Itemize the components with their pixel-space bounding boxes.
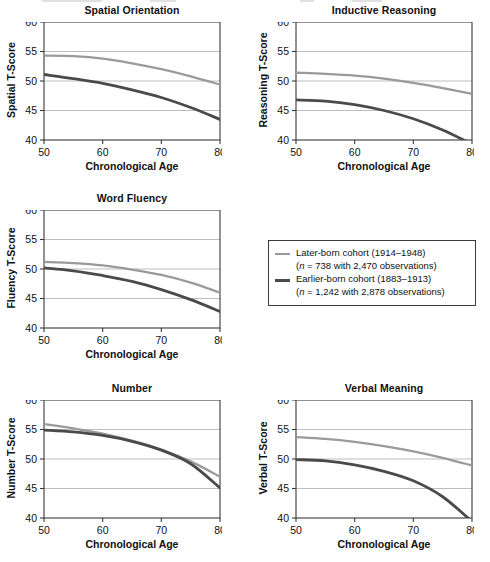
panel-title-word-fluency: Word Fluency [44, 192, 220, 204]
plot-wrap-spatial-orientation: 404550556050607080 [4, 22, 222, 162]
y-tick-label-55: 55 [25, 233, 37, 245]
legend-item-earlier-born: Earlier-born cohort (1883–1913) (n = 1,2… [275, 273, 467, 298]
y-tick-label-50: 50 [277, 75, 289, 87]
series-line-earlier-born-word-fluency [44, 268, 220, 312]
legend-detail-later-born: (n = 738 with 2,470 observations) [296, 260, 437, 273]
x-tick-label-60: 60 [97, 524, 109, 536]
x-tick-label-70: 70 [155, 524, 167, 536]
x-tick-label-80: 80 [466, 146, 474, 158]
plot-area-inductive-reasoning: 404550556050607080 [256, 22, 474, 162]
legend-label-earlier-born-text: Earlier-born cohort (1883–1913) [296, 273, 431, 284]
y-tick-label-40: 40 [25, 322, 37, 334]
series-line-later-born-spatial-orientation [44, 56, 220, 85]
y-tick-label-45: 45 [277, 482, 289, 494]
x-tick-label-80: 80 [466, 524, 474, 536]
y-tick-label-60: 60 [25, 22, 37, 28]
chart-legend: Later-born cohort (1914–1948) (n = 738 w… [268, 240, 476, 306]
y-tick-label-40: 40 [277, 512, 289, 524]
legend-item-later-born: Later-born cohort (1914–1948) (n = 738 w… [275, 247, 467, 272]
plot-wrap-number: 404550556050607080 [4, 400, 222, 540]
panel-word-fluency: Word FluencyFluency T-ScoreChronological… [4, 190, 226, 360]
x-tick-label-50: 50 [290, 146, 302, 158]
x-tick-label-50: 50 [38, 524, 50, 536]
x-tick-label-50: 50 [290, 524, 302, 536]
panel-spatial-orientation: Spatial OrientationSpatial T-ScoreChrono… [4, 2, 226, 172]
y-tick-label-60: 60 [277, 400, 289, 406]
x-tick-label-70: 70 [407, 146, 419, 158]
x-tick-label-70: 70 [155, 334, 167, 346]
x-tick-label-80: 80 [214, 146, 222, 158]
x-tick-label-60: 60 [349, 524, 361, 536]
y-tick-label-40: 40 [25, 512, 37, 524]
plot-wrap-verbal-meaning: 404550556050607080 [256, 400, 474, 540]
x-tick-label-80: 80 [214, 334, 222, 346]
legend-detail-earlier-born: (n = 1,242 with 2,878 observations) [296, 286, 445, 299]
panel-title-verbal-meaning: Verbal Meaning [296, 382, 472, 394]
y-tick-label-40: 40 [25, 134, 37, 146]
series-line-earlier-born-verbal-meaning [296, 460, 472, 522]
y-tick-label-60: 60 [277, 22, 289, 28]
y-tick-label-50: 50 [25, 453, 37, 465]
y-tick-label-60: 60 [25, 400, 37, 406]
legend-swatch-earlier-born-line [275, 279, 290, 282]
y-tick-label-50: 50 [277, 453, 289, 465]
series-line-later-born-inductive-reasoning [296, 73, 472, 94]
plot-area-verbal-meaning: 404550556050607080 [256, 400, 474, 540]
y-tick-label-45: 45 [25, 292, 37, 304]
x-tick-label-50: 50 [38, 146, 50, 158]
plot-wrap-word-fluency: 404550556050607080 [4, 210, 222, 350]
x-tick-label-70: 70 [155, 146, 167, 158]
x-tick-label-60: 60 [97, 334, 109, 346]
x-tick-label-50: 50 [38, 334, 50, 346]
figure-cognitive-abilities-by-cohort: Spatial OrientationSpatial T-ScoreChrono… [0, 0, 490, 562]
panel-verbal-meaning: Verbal MeaningVerbal T-ScoreChronologica… [256, 380, 478, 550]
panel-number: NumberNumber T-ScoreChronological Age404… [4, 380, 226, 550]
legend-label-earlier-born: Earlier-born cohort (1883–1913) (n = 1,2… [296, 273, 445, 298]
x-tick-label-80: 80 [214, 524, 222, 536]
y-tick-label-45: 45 [277, 104, 289, 116]
series-line-earlier-born-inductive-reasoning [296, 100, 472, 144]
plot-area-spatial-orientation: 404550556050607080 [4, 22, 222, 162]
series-line-later-born-word-fluency [44, 262, 220, 293]
plot-wrap-inductive-reasoning: 404550556050607080 [256, 22, 474, 162]
y-tick-label-45: 45 [25, 482, 37, 494]
y-tick-label-55: 55 [277, 45, 289, 57]
y-tick-label-45: 45 [25, 104, 37, 116]
panel-title-inductive-reasoning: Inductive Reasoning [296, 4, 472, 16]
plot-area-number: 404550556050607080 [4, 400, 222, 540]
y-tick-label-55: 55 [277, 423, 289, 435]
legend-swatch-later-born-line [275, 253, 290, 255]
y-tick-label-50: 50 [25, 75, 37, 87]
y-tick-label-60: 60 [25, 210, 37, 216]
x-tick-label-60: 60 [349, 146, 361, 158]
panel-title-number: Number [44, 382, 220, 394]
x-tick-label-70: 70 [407, 524, 419, 536]
legend-label-later-born: Later-born cohort (1914–1948) (n = 738 w… [296, 247, 437, 272]
y-tick-label-50: 50 [25, 263, 37, 275]
y-tick-label-40: 40 [277, 134, 289, 146]
y-tick-label-55: 55 [25, 45, 37, 57]
y-tick-label-55: 55 [25, 423, 37, 435]
legend-label-later-born-text: Later-born cohort (1914–1948) [296, 247, 425, 258]
x-tick-label-60: 60 [97, 146, 109, 158]
panel-title-spatial-orientation: Spatial Orientation [44, 4, 220, 16]
plot-area-word-fluency: 404550556050607080 [4, 210, 222, 350]
panel-inductive-reasoning: Inductive ReasoningReasoning T-ScoreChro… [256, 2, 478, 172]
